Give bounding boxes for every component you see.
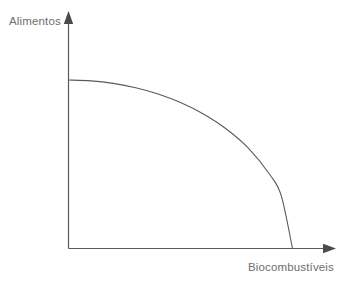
arrow-right-icon xyxy=(323,244,336,254)
ppf-chart-figure: Alimentos Biocombustíveis xyxy=(0,0,346,283)
arrow-up-icon xyxy=(64,11,73,24)
y-axis-label: Alimentos xyxy=(9,16,61,28)
chart-canvas xyxy=(0,0,346,283)
x-axis-label: Biocombustíveis xyxy=(248,262,334,274)
ppf-curve xyxy=(69,80,293,249)
